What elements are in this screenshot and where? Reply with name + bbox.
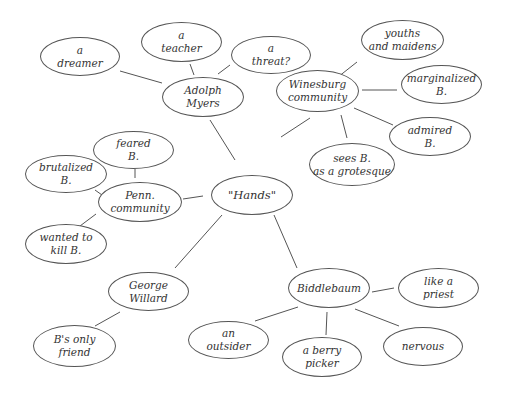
node-text: kill B.	[51, 244, 82, 257]
node-an-outsider: an outsider	[188, 321, 269, 359]
node-text: dreamer	[57, 57, 102, 70]
node-like-a-priest: like a priest	[398, 268, 479, 308]
node-winesburg-community: Winesburg community	[276, 70, 359, 112]
node-text: a	[77, 44, 83, 57]
node-text: a	[268, 42, 274, 55]
node-text: B.	[436, 85, 447, 98]
node-penn-community: Penn. community	[98, 182, 182, 222]
node-a-teacher: a teacher	[141, 22, 222, 62]
node-text: B.	[424, 137, 435, 150]
node-text: outsider	[206, 340, 250, 353]
node-text: B's only	[54, 333, 96, 346]
node-text: Penn.	[125, 189, 155, 202]
node-text: community	[110, 202, 169, 215]
node-text: brutalized	[39, 161, 93, 174]
node-sees-as-grotesque: sees B. as a grotesque	[309, 143, 395, 186]
node-text: marginalized	[407, 72, 477, 85]
node-text: as a grotesque	[313, 165, 391, 178]
node-feared: feared B.	[93, 131, 174, 169]
node-text: teacher	[161, 42, 202, 55]
node-adolph-myers: Adolph Myers	[162, 77, 244, 117]
node-text: nervous	[402, 340, 444, 353]
node-text: admired	[408, 124, 452, 137]
node-text: like a	[424, 275, 453, 288]
node-a-threat: a threat?	[231, 36, 311, 74]
node-hands-central: "Hands"	[211, 175, 293, 215]
node-youths-and-maidens: youths and maidens	[361, 20, 444, 60]
node-a-dreamer: a dreamer	[40, 37, 120, 76]
node-text: wanted to	[39, 231, 92, 244]
node-a-berry-picker: a berry picker	[282, 337, 362, 377]
node-bs-only-friend: B's only friend	[33, 325, 116, 367]
node-text: B.	[128, 150, 139, 163]
node-text: threat?	[252, 55, 290, 68]
node-text: youths	[385, 27, 420, 40]
node-text: Biddlebaum	[297, 282, 361, 295]
node-text: B.	[60, 174, 71, 187]
node-marginalized: marginalized B.	[401, 65, 482, 104]
node-text: and maidens	[369, 40, 437, 53]
node-text: a	[178, 29, 184, 42]
node-text: community	[288, 91, 347, 104]
node-text: an	[222, 327, 235, 340]
node-text: George	[129, 279, 168, 292]
node-text: friend	[59, 346, 91, 359]
node-text: Winesburg	[289, 78, 347, 91]
node-text: Adolph	[184, 84, 221, 97]
node-george-willard: George Willard	[108, 272, 189, 311]
node-wanted-to-kill: wanted to kill B.	[25, 224, 107, 264]
node-text: Myers	[186, 97, 219, 110]
node-text: Willard	[129, 292, 168, 305]
node-nervous: nervous	[383, 327, 463, 366]
node-text: a berry	[303, 344, 342, 357]
node-biddlebaum: Biddlebaum	[288, 268, 370, 308]
node-admired: admired B.	[389, 117, 471, 156]
node-text: "Hands"	[228, 189, 276, 202]
node-text: picker	[305, 357, 339, 370]
node-text: sees B.	[333, 152, 371, 165]
node-brutalized: brutalized B.	[25, 155, 107, 193]
node-text: priest	[423, 288, 454, 301]
node-text: feared	[116, 137, 150, 150]
